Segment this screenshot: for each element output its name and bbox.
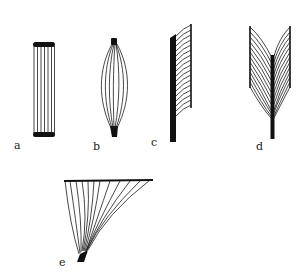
muscle-fiber-diagram: a b (0, 0, 300, 274)
pennate-fibers (176, 25, 191, 116)
panel-b-fusiform-muscle: b (93, 38, 128, 153)
parallel-fibers (34, 46, 55, 133)
central-tendon (170, 34, 176, 142)
panel-e-convergent-muscle: e (59, 180, 153, 269)
convergent-fibers (65, 180, 150, 254)
fusiform-fibers (101, 44, 127, 128)
panel-d-bipennate-muscle: d (250, 26, 290, 153)
right-pennate-fibers (274, 27, 290, 118)
left-pennate-fibers (250, 27, 271, 118)
panel-a-parallel-muscle: a (14, 42, 55, 152)
panel-label-e: e (59, 256, 66, 269)
panel-label-b: b (93, 140, 100, 153)
panel-c-unipennate-muscle: c (151, 24, 191, 149)
panel-label-d: d (256, 140, 263, 153)
panel-label-a: a (14, 139, 21, 152)
panel-label-c: c (151, 136, 157, 149)
